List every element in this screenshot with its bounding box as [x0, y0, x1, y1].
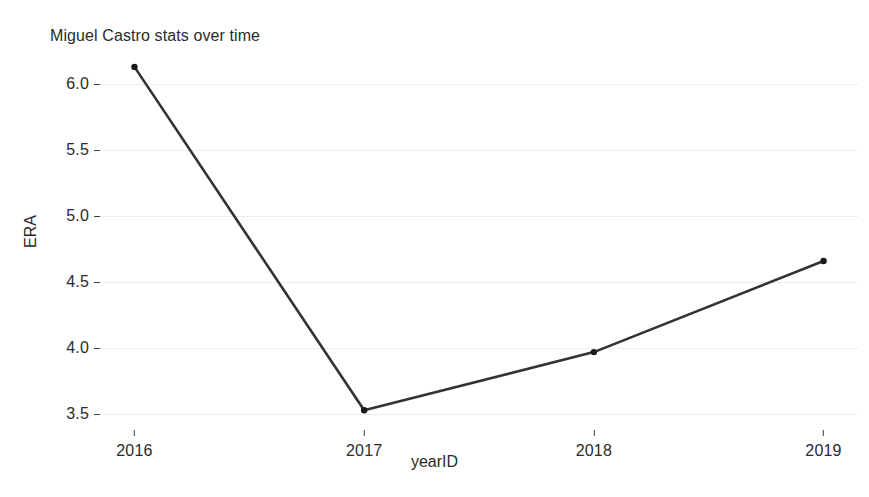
y-axis: 6.05.55.04.54.03.5 [0, 55, 100, 430]
x-axis-title: yearID [0, 453, 869, 471]
series-line [134, 67, 823, 410]
y-axis-tick-label: 3.5 [66, 405, 89, 423]
y-axis-tick: 6.0 [66, 75, 100, 93]
y-axis-tick: 4.5 [66, 273, 100, 291]
data-point-marker [820, 258, 826, 264]
x-axis-tick-mark [134, 430, 135, 436]
chart-container: Miguel Castro stats over time ERA 6.05.5… [0, 0, 869, 497]
y-axis-tick-label: 5.5 [66, 141, 89, 159]
data-series-line [100, 55, 858, 430]
y-axis-tick: 5.5 [66, 141, 100, 159]
data-point-marker [591, 349, 597, 355]
plot-area [100, 55, 858, 430]
x-axis-tick-mark [823, 430, 824, 436]
x-axis-tick-mark [364, 430, 365, 436]
y-axis-tick-label: 4.0 [66, 339, 89, 357]
y-axis-tick: 4.0 [66, 339, 100, 357]
chart-title: Miguel Castro stats over time [50, 27, 260, 45]
data-point-marker [131, 64, 137, 70]
y-axis-tick-label: 4.5 [66, 273, 89, 291]
y-axis-tick-label: 6.0 [66, 75, 89, 93]
x-axis-tick-mark [593, 430, 594, 436]
y-axis-tick: 3.5 [66, 405, 100, 423]
data-point-marker [361, 407, 367, 413]
y-axis-tick-label: 5.0 [66, 207, 89, 225]
y-axis-tick: 5.0 [66, 207, 100, 225]
